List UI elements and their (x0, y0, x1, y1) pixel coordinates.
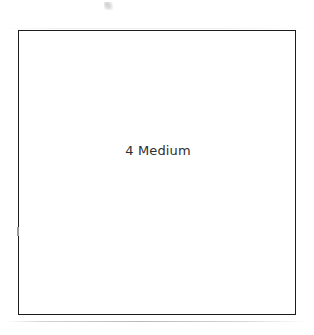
page-canvas: 4 Medium (0, 0, 314, 335)
scan-top-streak-artifact (0, 28, 314, 29)
scan-baseline-streak-artifact (6, 321, 306, 322)
medium-box: 4 Medium (18, 30, 296, 315)
medium-box-label: 4 Medium (19, 31, 297, 316)
scan-speck-artifact (104, 2, 113, 10)
